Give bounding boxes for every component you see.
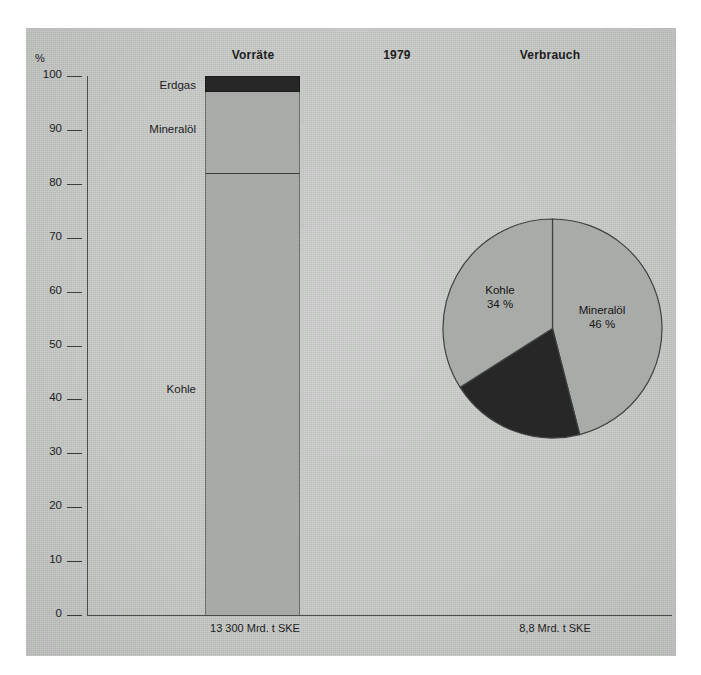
- y-axis-line: [87, 76, 88, 616]
- bar-label-erdgas: Erdgas: [80, 79, 196, 91]
- y-axis-tick-label: 100: [20, 68, 62, 80]
- column-title-reserves: Vorräte: [203, 48, 303, 62]
- y-axis-unit-label: %: [35, 52, 45, 64]
- y-axis-tick-mark: [67, 561, 82, 562]
- pie-label-kohle: Kohle 34 %: [455, 283, 545, 312]
- y-axis-tick-label: 10: [20, 553, 62, 565]
- bar-label-kohle: Kohle: [80, 383, 196, 395]
- bar-segment-erdgas: [205, 76, 300, 92]
- column-title-consumption: Verbrauch: [475, 48, 625, 62]
- y-axis-tick-mark: [67, 184, 82, 185]
- pie-label-mineraloel-value: 46 %: [589, 318, 615, 330]
- energy-chart-figure: Vorräte 1979 Verbrauch % 100908070605040…: [0, 0, 701, 675]
- y-axis-tick-label: 20: [20, 499, 62, 511]
- y-axis-tick-mark: [67, 453, 82, 454]
- y-axis-tick-label: 40: [20, 391, 62, 403]
- y-axis-tick-mark: [67, 615, 82, 616]
- y-axis-tick-label: 30: [20, 445, 62, 457]
- y-axis-tick-mark: [67, 76, 82, 77]
- y-axis-tick-label: 90: [20, 122, 62, 134]
- pie-label-mineraloel: Mineralöl 46 %: [549, 303, 655, 332]
- chart-year-label: 1979: [352, 48, 442, 62]
- x-axis-baseline: [87, 615, 672, 616]
- bar-segment-kohle: [205, 173, 300, 615]
- y-axis-tick-mark: [67, 346, 82, 347]
- y-axis-tick-mark: [67, 238, 82, 239]
- pie-label-kohle-name: Kohle: [485, 284, 514, 296]
- bar-label-mineraloel: Mineralöl: [80, 123, 196, 135]
- y-axis-tick-mark: [67, 507, 82, 508]
- y-axis-tick-mark: [67, 399, 82, 400]
- footnote-consumption-total: 8,8 Mrd. t SKE: [480, 622, 630, 634]
- y-axis-tick-label: 70: [20, 230, 62, 242]
- pie-label-kohle-value: 34 %: [487, 298, 513, 310]
- y-axis-tick-label: 0: [20, 607, 62, 619]
- pie-label-mineraloel-name: Mineralöl: [579, 304, 626, 316]
- y-axis-tick-mark: [67, 292, 82, 293]
- footnote-reserves-total: 13 300 Mrd. t SKE: [175, 622, 335, 634]
- y-axis-tick-label: 80: [20, 176, 62, 188]
- y-axis-tick-label: 50: [20, 338, 62, 350]
- y-axis-tick-label: 60: [20, 284, 62, 296]
- bar-segment-mineraloel: [205, 92, 300, 173]
